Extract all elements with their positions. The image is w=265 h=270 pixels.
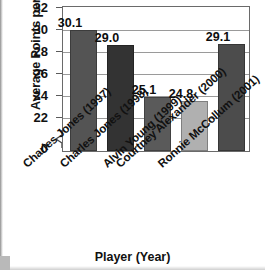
y-tick-label-32: 32 [22, 0, 48, 15]
bar-value-ronnie-mccollum-2001: 29.1 [196, 30, 240, 44]
scan-edge-left [0, 0, 3, 258]
scan-edge-bottom [0, 266, 265, 270]
y-tick-label-24: 24 [22, 88, 48, 103]
x-axis-title: Player (Year) [0, 250, 265, 264]
y-tick-label-26: 26 [22, 66, 48, 81]
bar-value-charles-jones-1997: 30.1 [48, 16, 92, 30]
bar-chart-figure: Average Points per Game 32 30 28 26 24 2… [0, 0, 265, 270]
y-tick-label-30: 30 [22, 22, 48, 37]
y-tick-label-28: 28 [22, 44, 48, 59]
y-tick-label-22: 22 [22, 110, 48, 125]
bar-value-charles-jones-1998: 29.0 [85, 31, 129, 45]
